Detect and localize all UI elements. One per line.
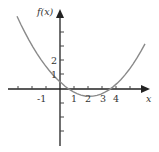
parabola-curve	[17, 16, 145, 96]
y-tick-label: 1	[51, 69, 57, 80]
x-tick-label: -1	[37, 93, 46, 104]
x-tick-label: 1	[71, 93, 77, 104]
y-tick-label: 2	[51, 55, 57, 66]
x-tick-label: 3	[100, 93, 106, 104]
x-tick-label: 2	[85, 93, 91, 104]
x-axis-label: x	[146, 93, 152, 104]
x-tick-label: 4	[113, 93, 119, 104]
y-axis-label: f(x)	[36, 6, 54, 17]
function-graph: f(x) x -1 1 2 3 4 1 2	[0, 0, 159, 152]
y-axis-arrow-icon	[56, 9, 64, 18]
x-axis-arrow-icon	[141, 85, 150, 93]
